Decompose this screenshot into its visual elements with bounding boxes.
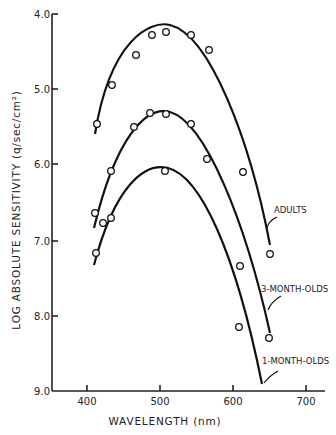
- x-tick: 500: [150, 396, 169, 407]
- label-adults: ADULTS: [274, 205, 307, 215]
- y-axis-label: LOG ABSOLUTE SENSITIVITY (q/sec/cm²): [10, 90, 22, 329]
- x-tick: 600: [223, 396, 242, 407]
- y-tick: 4.0: [34, 9, 50, 20]
- y-tick: 7.0: [34, 236, 50, 247]
- y-tick: 9.0: [34, 386, 50, 397]
- y-tick: 8.0: [34, 311, 50, 322]
- label-1-month-olds: 1-MONTH-OLDS: [262, 356, 329, 366]
- x-tick: 400: [77, 396, 96, 407]
- axes: [52, 14, 325, 391]
- chart: 4.0 5.0 6.0 7.0 8.0 9.0 400 500 600 700 …: [0, 0, 336, 435]
- label-3-month-olds: 3-MONTH-OLDS: [261, 284, 328, 294]
- y-tick: 6.0: [34, 159, 50, 170]
- data-points: [92, 29, 274, 342]
- curves: [94, 24, 270, 384]
- curve-1-month: [94, 167, 262, 384]
- curve-adults: [95, 24, 270, 245]
- x-tick: 700: [296, 396, 315, 407]
- y-tick: 5.0: [34, 84, 50, 95]
- x-axis-label: WAVELENGTH (nm): [109, 415, 222, 427]
